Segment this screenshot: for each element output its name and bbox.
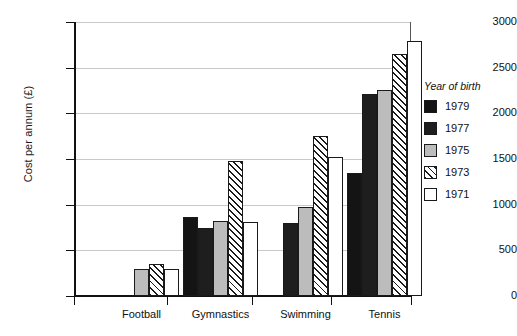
legend-item-1971[interactable]: 1971 bbox=[424, 187, 516, 202]
legend-label-1971: 1971 bbox=[445, 189, 469, 200]
legend-label-1979: 1979 bbox=[445, 101, 469, 112]
y-axis-line bbox=[74, 22, 76, 297]
x-tick-0 bbox=[74, 296, 75, 305]
bar-swimming-1977 bbox=[283, 223, 298, 296]
bar-gymnastics-1973 bbox=[228, 161, 243, 296]
bar-swimming-1975 bbox=[298, 207, 313, 296]
x-label-tennis: Tennis bbox=[335, 308, 435, 320]
swatch-solid-white-icon bbox=[424, 188, 437, 201]
y-tick-label-2500: 2500 bbox=[459, 61, 517, 73]
bar-tennis-1977 bbox=[362, 94, 377, 296]
bar-gymnastics-1979 bbox=[183, 217, 198, 296]
legend-title: Year of birth bbox=[424, 80, 516, 92]
bar-group-swimming bbox=[268, 22, 343, 296]
bar-gymnastics-1971 bbox=[243, 222, 258, 296]
legend: Year of birth 19791977197519731971 bbox=[424, 80, 516, 209]
bar-football-1975 bbox=[134, 269, 149, 296]
legend-item-1973[interactable]: 1973 bbox=[424, 165, 516, 180]
bar-football-1973 bbox=[149, 264, 164, 296]
bar-chart: Cost per annum (£) 050010001500200025003… bbox=[0, 0, 517, 336]
bar-tennis-1971 bbox=[407, 41, 422, 296]
bar-tennis-1979 bbox=[347, 173, 362, 296]
legend-label-1975: 1975 bbox=[445, 145, 469, 156]
y-tick-label-3000: 3000 bbox=[459, 15, 517, 27]
legend-label-1977: 1977 bbox=[445, 123, 469, 134]
y-tick-label-0: 0 bbox=[459, 289, 517, 301]
y-axis-title: Cost per annum (£) bbox=[22, 44, 34, 224]
swatch-solid-gray-icon bbox=[424, 144, 437, 157]
bar-tennis-1973 bbox=[392, 54, 407, 296]
x-tick-4 bbox=[411, 296, 412, 305]
bar-group-gymnastics bbox=[183, 22, 258, 296]
bar-gymnastics-1977 bbox=[198, 228, 213, 297]
legend-items: 19791977197519731971 bbox=[424, 99, 516, 202]
legend-item-1979[interactable]: 1979 bbox=[424, 99, 516, 114]
bar-swimming-1971 bbox=[328, 157, 343, 296]
bar-gymnastics-1975 bbox=[213, 221, 228, 296]
x-tick-1 bbox=[167, 296, 168, 305]
legend-item-1977[interactable]: 1977 bbox=[424, 121, 516, 136]
x-tick-2 bbox=[252, 296, 253, 305]
bar-football-1971 bbox=[164, 269, 179, 296]
legend-label-1973: 1973 bbox=[445, 167, 469, 178]
bar-group-tennis bbox=[347, 22, 422, 296]
bar-swimming-1973 bbox=[313, 136, 328, 296]
y-tick-label-500: 500 bbox=[459, 243, 517, 255]
swatch-solid-black-icon bbox=[424, 100, 437, 113]
swatch-solid-black-icon bbox=[424, 122, 437, 135]
bar-group-football bbox=[104, 22, 179, 296]
swatch-diagonal-hatch-icon bbox=[424, 166, 437, 179]
x-tick-3 bbox=[331, 296, 332, 305]
bar-tennis-1975 bbox=[377, 90, 392, 296]
legend-item-1975[interactable]: 1975 bbox=[424, 143, 516, 158]
